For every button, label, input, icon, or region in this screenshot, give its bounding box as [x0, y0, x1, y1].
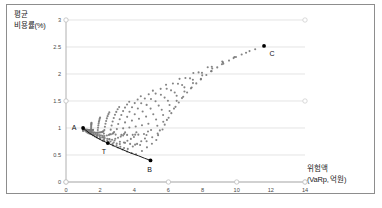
y-tick-label: 2	[58, 71, 61, 77]
scatter-point	[189, 77, 191, 79]
scatter-point	[135, 131, 137, 133]
data-point-label: B	[147, 166, 152, 173]
scatter-point	[254, 48, 256, 50]
scatter-point	[119, 141, 121, 143]
scatter-point	[136, 143, 138, 145]
scatter-point	[160, 94, 162, 96]
scatter-point	[98, 123, 100, 125]
scatter-point	[140, 140, 142, 142]
scatter-point	[190, 87, 192, 89]
scatter-point	[124, 131, 126, 133]
scatter-point	[105, 120, 107, 122]
scatter-point	[135, 125, 137, 127]
scatter-point	[103, 133, 105, 135]
data-point-label: A	[72, 124, 77, 131]
scatter-point	[126, 134, 128, 136]
scatter-point	[145, 116, 147, 118]
scatter-point	[166, 119, 168, 121]
scatter-point	[128, 111, 130, 113]
scatter-point	[137, 134, 139, 136]
scatter-point	[165, 84, 167, 86]
scatter-point	[108, 134, 110, 136]
scatter-point	[131, 120, 133, 122]
scatter-point	[123, 147, 125, 149]
scatter-point	[181, 84, 183, 86]
scatter-point	[109, 140, 111, 142]
scatter-cloud	[82, 45, 265, 155]
scatter-point	[134, 102, 136, 104]
scatter-point	[117, 123, 119, 125]
chart-figure: 평균 비용률(%) 위험액 (VaRp, 억원) 00.511.522.53 0…	[0, 0, 382, 208]
scatter-point	[111, 139, 113, 141]
scatter-point	[126, 140, 128, 142]
data-point-marker	[81, 126, 85, 130]
scatter-point	[245, 52, 247, 54]
scatter-point	[114, 114, 116, 116]
scatter-point	[97, 129, 99, 131]
scatter-point	[148, 93, 150, 95]
scatter-point	[102, 135, 104, 137]
scatter-point	[144, 137, 146, 139]
scatter-point	[211, 70, 213, 72]
scatter-point	[134, 113, 136, 115]
scatter-point	[144, 97, 146, 99]
y-tick-label: 1	[58, 125, 61, 131]
x-tick-label: 10	[234, 187, 240, 193]
scatter-point	[104, 137, 106, 139]
scatter-point	[139, 144, 141, 146]
scatter-point	[130, 138, 132, 140]
scatter-point	[155, 139, 157, 141]
x-tick-label: 14	[302, 187, 308, 193]
x-tick-label: 12	[268, 187, 274, 193]
scatter-point	[106, 117, 108, 119]
scatter-point	[205, 74, 207, 76]
scatter-point	[115, 111, 117, 113]
scatter-point	[133, 136, 135, 138]
scatter-point	[99, 117, 101, 119]
scatter-point	[113, 117, 115, 119]
scatter-point	[113, 142, 115, 144]
scatter-point	[138, 118, 140, 120]
scatter-point	[170, 112, 172, 114]
scatter-point	[178, 101, 180, 103]
scatter-point	[124, 121, 126, 123]
scatter-point	[158, 105, 160, 107]
scatter-point	[166, 88, 168, 90]
scatter-point	[168, 117, 170, 119]
data-point-marker	[106, 141, 110, 145]
scatter-point	[140, 95, 142, 97]
scatter-point	[110, 129, 112, 131]
scatter-point	[211, 67, 213, 69]
data-point-marker	[149, 159, 153, 163]
scatter-point	[104, 126, 106, 128]
scatter-point	[141, 124, 143, 126]
scatter-point	[183, 91, 185, 93]
scatter-point	[128, 126, 130, 128]
scatter-point	[127, 148, 129, 150]
scatter-point	[233, 57, 235, 59]
scatter-point	[228, 60, 230, 62]
scatter-point	[184, 77, 186, 79]
scatter-point	[150, 108, 152, 110]
y-tick-labels: 00.511.522.53	[53, 17, 61, 185]
scatter-point	[145, 134, 147, 136]
scatter-point	[106, 134, 108, 136]
scatter-point	[177, 83, 179, 85]
y-tick-label: 1.5	[53, 98, 61, 104]
scatter-point	[107, 115, 109, 117]
data-point-marker	[262, 44, 266, 48]
scatter-point	[151, 136, 153, 138]
scatter-point	[123, 141, 125, 143]
scatter-point	[161, 128, 163, 130]
scatter-point	[200, 78, 202, 80]
scatter-point	[154, 100, 156, 102]
scatter-point	[115, 134, 117, 136]
scatter-point	[124, 107, 126, 109]
x-tick-label: 0	[64, 187, 67, 193]
scatter-point	[176, 95, 178, 97]
scatter-point	[140, 102, 142, 104]
scatter-point	[112, 121, 114, 123]
scatter-point	[102, 130, 104, 132]
y-tick-label: 0	[58, 179, 61, 185]
scatter-point	[168, 104, 170, 106]
